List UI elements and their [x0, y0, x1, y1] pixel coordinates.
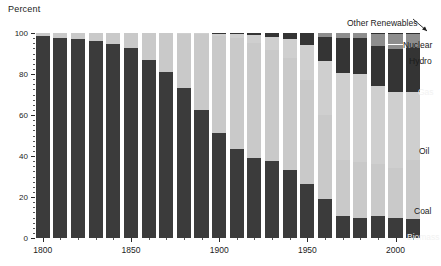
segment-hydro — [353, 34, 367, 38]
segment-biomass — [194, 110, 208, 238]
y-tick — [33, 218, 35, 219]
y-tick — [33, 100, 35, 101]
x-tick-label: 1950 — [298, 245, 317, 255]
y-tick — [33, 202, 35, 203]
segment-coal — [89, 33, 103, 41]
bar-1850 — [124, 33, 138, 238]
segment-gas — [406, 48, 420, 92]
segment-oil — [336, 73, 350, 160]
segment-biomass — [177, 88, 191, 238]
y-tick — [33, 207, 35, 208]
y-axis-title: Percent — [8, 4, 40, 14]
segment-other-renewables — [388, 33, 402, 34]
y-tick — [33, 166, 35, 167]
segment-oil — [265, 37, 279, 50]
segment-nuclear — [336, 33, 350, 34]
segment-nuclear — [388, 34, 402, 45]
series-label-oil: Oil — [419, 147, 429, 156]
segment-biomass — [142, 60, 156, 238]
y-tick — [33, 171, 35, 172]
bar-1800 — [36, 33, 50, 238]
segment-biomass — [388, 218, 402, 239]
series-label-hydro: Hydro — [409, 57, 432, 66]
segment-biomass — [212, 133, 226, 238]
x-tick-label: 1800 — [33, 245, 52, 255]
y-tick — [33, 233, 35, 234]
y-tick — [33, 95, 35, 96]
y-tick — [33, 228, 35, 229]
x-tick — [272, 238, 273, 240]
x-tick — [166, 238, 167, 240]
segment-coal — [336, 160, 350, 216]
bar-1810 — [53, 33, 67, 238]
segment-coal — [71, 33, 85, 39]
y-tick — [33, 146, 35, 147]
segment-gas — [300, 33, 314, 45]
x-tick — [78, 238, 79, 240]
segment-oil — [371, 86, 385, 164]
x-tick — [96, 238, 97, 240]
segment-gas — [247, 33, 261, 35]
bar-1990 — [371, 33, 385, 238]
x-tick-label: 2000 — [386, 245, 405, 255]
segment-coal — [106, 33, 120, 44]
segment-biomass — [89, 41, 103, 238]
y-tick — [33, 130, 35, 131]
y-tick — [33, 59, 35, 60]
bar-1870 — [159, 33, 173, 238]
segment-oil — [300, 45, 314, 80]
segment-oil — [283, 39, 297, 57]
bar-1840 — [106, 33, 120, 238]
y-tick — [33, 151, 35, 152]
segment-biomass — [247, 158, 261, 238]
y-tick-label: 80 — [19, 70, 28, 79]
y-tick — [31, 33, 35, 34]
y-tick-label: 40 — [19, 152, 28, 161]
bar-2000 — [388, 33, 402, 238]
segment-coal — [177, 34, 191, 88]
segment-gas — [265, 33, 279, 37]
segment-oil — [230, 34, 244, 38]
y-tick-label: 0 — [24, 234, 28, 243]
segment-biomass — [371, 216, 385, 238]
bar-1880 — [177, 33, 191, 238]
y-tick — [33, 161, 35, 162]
y-tick — [31, 156, 35, 157]
y-tick — [33, 64, 35, 65]
bar-1860 — [142, 33, 156, 238]
bar-1950 — [300, 33, 314, 238]
x-tick — [113, 238, 114, 240]
y-tick — [33, 48, 35, 49]
bar-1900 — [212, 33, 226, 238]
x-tick — [396, 238, 397, 242]
segment-biomass — [53, 38, 67, 238]
segment-oil — [194, 33, 208, 34]
segment-coal — [159, 33, 173, 72]
x-tick — [343, 238, 344, 240]
y-tick — [31, 197, 35, 198]
x-tick — [131, 238, 132, 242]
segment-gas — [283, 33, 297, 39]
x-tick — [254, 238, 255, 240]
segment-coal — [212, 36, 226, 133]
x-tick — [290, 238, 291, 240]
x-tick — [149, 238, 150, 240]
y-tick — [33, 38, 35, 39]
segment-hydro — [336, 34, 350, 38]
y-tick — [33, 69, 35, 70]
y-tick — [33, 84, 35, 85]
segment-gas — [212, 33, 226, 34]
segment-coal — [247, 43, 261, 158]
segment-coal — [194, 34, 208, 110]
y-tick — [33, 79, 35, 80]
x-tick — [378, 238, 379, 240]
segment-gas — [230, 33, 244, 34]
bar-1820 — [71, 33, 85, 238]
series-label-nuclear: Nuclear — [403, 41, 432, 50]
series-label-biomass: Biomass — [407, 233, 440, 242]
x-tick — [184, 238, 185, 240]
x-tick-label: 1850 — [122, 245, 141, 255]
x-tick — [202, 238, 203, 240]
bar-1830 — [89, 33, 103, 238]
segment-biomass — [300, 184, 314, 238]
